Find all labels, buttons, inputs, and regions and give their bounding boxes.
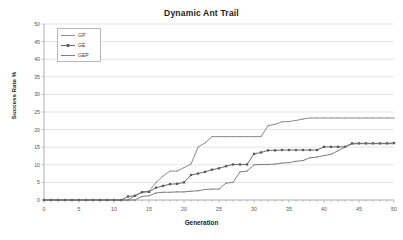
series-marker-GE bbox=[190, 174, 192, 176]
series-marker-GE bbox=[176, 183, 178, 185]
series-marker-GE bbox=[239, 163, 241, 165]
series-marker-GE bbox=[309, 149, 311, 151]
series-marker-GE bbox=[211, 169, 213, 171]
series-marker-GE bbox=[204, 171, 206, 173]
series-marker-GE bbox=[260, 151, 262, 153]
x-tick-label: 50 bbox=[384, 206, 403, 212]
series-marker-GE bbox=[295, 149, 297, 151]
series-marker-GE bbox=[288, 149, 290, 151]
x-tick-label: 35 bbox=[279, 206, 299, 212]
x-tick-label: 20 bbox=[174, 206, 194, 212]
series-marker-GE bbox=[218, 167, 220, 169]
legend-item-0[interactable]: GP bbox=[60, 31, 98, 39]
series-marker-GE bbox=[253, 153, 255, 155]
legend: GP GE GEP bbox=[57, 28, 101, 62]
legend-item-2[interactable]: GEP bbox=[60, 51, 98, 59]
legend-line-icon-2 bbox=[60, 52, 76, 59]
x-tick-label: 0 bbox=[34, 206, 54, 212]
legend-label-1: GE bbox=[78, 42, 85, 48]
series-marker-GE bbox=[162, 185, 164, 187]
series-marker-GE bbox=[183, 181, 185, 183]
x-tick-label: 15 bbox=[139, 206, 159, 212]
series-line-GEP bbox=[44, 144, 394, 200]
series-marker-GE bbox=[155, 187, 157, 189]
series-marker-GE bbox=[267, 149, 269, 151]
series-marker-GE bbox=[302, 149, 304, 151]
series-marker-GE bbox=[141, 191, 143, 193]
series-marker-GE bbox=[323, 146, 325, 148]
series-marker-GE bbox=[281, 149, 283, 151]
chart-figure: Dynamic Ant Trail Success Rate % Generat… bbox=[0, 0, 403, 240]
legend-line-icon-1 bbox=[60, 42, 76, 49]
x-tick-label: 25 bbox=[209, 206, 229, 212]
legend-label-0: GP bbox=[78, 32, 85, 38]
series-line-GP bbox=[44, 118, 394, 200]
series-marker-GE bbox=[148, 191, 150, 193]
series-marker-GE bbox=[134, 195, 136, 197]
x-tick-label: 5 bbox=[69, 206, 89, 212]
series-marker-GE bbox=[316, 149, 318, 151]
legend-label-2: GEP bbox=[78, 52, 89, 58]
series-marker-GE bbox=[127, 195, 129, 197]
series-marker-GE bbox=[337, 146, 339, 148]
series-marker-GE bbox=[246, 163, 248, 165]
series-marker-GE bbox=[169, 183, 171, 185]
x-tick-label: 45 bbox=[349, 206, 369, 212]
x-tick-label: 40 bbox=[314, 206, 334, 212]
series-marker-GE bbox=[225, 165, 227, 167]
series-marker-GE bbox=[330, 146, 332, 148]
series-marker-GE bbox=[232, 163, 234, 165]
x-tick-label: 30 bbox=[244, 206, 264, 212]
legend-item-1[interactable]: GE bbox=[60, 41, 98, 49]
x-tick-label: 10 bbox=[104, 206, 124, 212]
series-line-GE bbox=[44, 143, 394, 200]
legend-line-icon-0 bbox=[60, 32, 76, 39]
series-marker-GE bbox=[197, 172, 199, 174]
series-marker-GE bbox=[274, 149, 276, 151]
